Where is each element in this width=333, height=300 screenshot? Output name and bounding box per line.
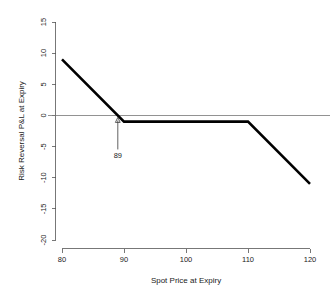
y-tick-label--20: -20 xyxy=(39,235,48,246)
risk-reversal-payoff-chart: 15 10 5 0 -5 -10 -15 -20 Risk Reversal P… xyxy=(0,0,333,300)
x-tick-label-80: 80 xyxy=(58,255,66,264)
y-tick-label-0: 0 xyxy=(39,113,48,117)
x-tick-label-100: 100 xyxy=(180,255,193,264)
y-tick-label--5: -5 xyxy=(39,143,48,150)
x-tick-label-90: 90 xyxy=(120,255,128,264)
chart-container: 15 10 5 0 -5 -10 -15 -20 Risk Reversal P… xyxy=(0,0,333,300)
breakeven-label: 89 xyxy=(114,151,122,160)
x-tick-label-120: 120 xyxy=(304,255,317,264)
y-tick-label--10: -10 xyxy=(39,172,48,183)
y-tick-label-5: 5 xyxy=(39,82,48,86)
y-axis-title: Risk Reversal P&L at Expiry xyxy=(17,81,26,181)
y-tick-label--15: -15 xyxy=(39,203,48,214)
x-axis-title: Spot Price at Expiry xyxy=(151,276,221,285)
chart-background xyxy=(0,0,333,300)
x-tick-label-110: 110 xyxy=(242,255,254,264)
y-tick-label-10: 10 xyxy=(39,49,48,57)
y-tick-label-15: 15 xyxy=(39,18,48,26)
